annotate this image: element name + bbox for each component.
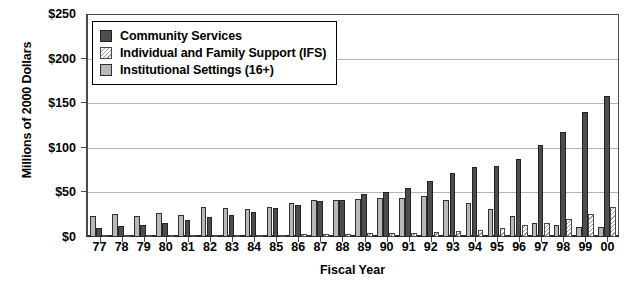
bar-institutional: [510, 216, 516, 237]
bar-institutional: [245, 209, 251, 237]
bar-group: [442, 14, 464, 237]
bar-institutional: [112, 214, 118, 237]
bar-ifs: [411, 233, 417, 237]
bar-institutional: [554, 225, 560, 237]
x-tick-label: 91: [398, 241, 420, 254]
x-tick-label: 00: [596, 241, 618, 254]
y-tick-label: $100: [30, 142, 76, 155]
x-tick-label: 78: [111, 241, 133, 254]
bar-community-services: [251, 212, 257, 237]
bar-community-services: [560, 132, 566, 237]
bar-community-services: [96, 228, 102, 237]
bar-ifs: [102, 235, 108, 237]
bar-community-services: [229, 215, 235, 237]
bar-community-services: [450, 173, 456, 237]
bar-group: [552, 14, 574, 237]
bar-institutional: [576, 227, 582, 237]
bar-chart: Millions of 2000 Dollars $0$50$100$150$2…: [0, 0, 637, 288]
bar-ifs: [257, 235, 263, 237]
x-tick-label: 98: [552, 241, 574, 254]
bar-institutional: [377, 198, 383, 237]
x-tick-label: 84: [243, 241, 265, 254]
x-tick-label: 99: [574, 241, 596, 254]
bar-community-services: [185, 220, 191, 237]
bar-community-services: [405, 188, 411, 237]
bar-ifs: [191, 235, 197, 237]
bar-community-services: [140, 225, 146, 237]
bar-group: [398, 14, 420, 237]
legend-label-ifs: Individual and Family Support (IFS): [120, 46, 326, 60]
legend-item-institutional: Institutional Settings (16+): [100, 61, 326, 78]
bar-institutional: [223, 208, 229, 237]
x-tick-label: 82: [199, 241, 221, 254]
x-tick-label: 95: [486, 241, 508, 254]
bar-institutional: [333, 200, 339, 237]
bar-institutional: [399, 198, 405, 237]
bar-ifs: [367, 233, 373, 237]
bar-group: [596, 14, 618, 237]
legend-item-community-services: Community Services: [100, 27, 326, 44]
bar-ifs: [301, 234, 307, 237]
swatch-ifs-icon: [100, 47, 112, 59]
x-tick-label: 77: [89, 241, 111, 254]
bar-community-services: [295, 205, 301, 237]
bar-ifs: [566, 219, 572, 237]
bar-institutional: [90, 216, 96, 237]
x-axis-title: Fiscal Year: [86, 263, 619, 277]
x-tick-label: 93: [442, 241, 464, 254]
bar-community-services: [361, 194, 367, 237]
bar-community-services: [207, 217, 213, 237]
bar-ifs: [544, 223, 550, 237]
bar-institutional: [134, 216, 140, 237]
bar-institutional: [532, 223, 538, 237]
x-tick-label: 87: [309, 241, 331, 254]
bar-ifs: [169, 235, 175, 237]
bar-ifs: [500, 228, 506, 237]
bar-community-services: [427, 181, 433, 237]
x-tick-label: 80: [155, 241, 177, 254]
bar-community-services: [162, 223, 168, 237]
swatch-community-services-icon: [100, 30, 112, 42]
bar-group: [508, 14, 530, 237]
bar-group: [486, 14, 508, 237]
bar-group: [574, 14, 596, 237]
bar-community-services: [582, 112, 588, 237]
x-tick-label: 94: [464, 241, 486, 254]
bar-institutional: [598, 227, 604, 237]
bar-ifs: [434, 232, 440, 237]
y-tick-label: $250: [30, 8, 76, 21]
bar-ifs: [146, 235, 152, 237]
bar-community-services: [383, 192, 389, 237]
bar-institutional: [466, 203, 472, 237]
bar-ifs: [323, 234, 329, 237]
bar-institutional: [289, 203, 295, 237]
bar-community-services: [604, 96, 610, 237]
bar-ifs: [279, 235, 285, 237]
bar-ifs: [522, 225, 528, 237]
bar-community-services: [339, 200, 345, 237]
bar-institutional: [311, 200, 317, 237]
bar-community-services: [538, 145, 544, 237]
bar-institutional: [201, 207, 207, 237]
x-tick-label: 96: [508, 241, 530, 254]
bar-ifs: [389, 233, 395, 237]
x-tick-label: 97: [530, 241, 552, 254]
bar-group: [420, 14, 442, 237]
bar-institutional: [488, 209, 494, 237]
x-tick-label: 85: [265, 241, 287, 254]
x-tick-label: 79: [133, 241, 155, 254]
x-tick-label: 86: [287, 241, 309, 254]
bar-institutional: [443, 200, 449, 237]
chart-legend: Community Services Individual and Family…: [92, 21, 337, 85]
bar-ifs: [456, 231, 462, 237]
x-tick-label: 83: [221, 241, 243, 254]
bar-institutional: [156, 213, 162, 237]
bar-community-services: [317, 201, 323, 237]
y-tick-label: $150: [30, 97, 76, 110]
y-tick-label: $0: [30, 231, 76, 244]
bar-group: [530, 14, 552, 237]
y-axis-ticks: $0$50$100$150$200$250: [0, 0, 86, 288]
y-tick-label: $200: [30, 53, 76, 66]
bar-community-services: [273, 208, 279, 237]
x-tick-label: 88: [331, 241, 353, 254]
